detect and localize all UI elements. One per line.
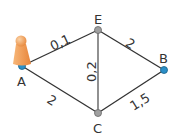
node-label-a: A: [17, 74, 26, 89]
edge-weight-e-b: 2: [123, 35, 138, 52]
node-label-c: C: [93, 121, 102, 136]
edge-weight-a-e: 0,1: [48, 31, 73, 53]
node-b: [161, 67, 168, 74]
edge-weight-e-c: 0,2: [84, 61, 99, 82]
edge-weight-a-c: 2: [44, 92, 59, 109]
node-e: [95, 27, 102, 34]
edge-weight-c-b: 1,5: [127, 90, 152, 114]
node-c: [95, 110, 102, 117]
pawn-icon: [13, 36, 31, 66]
node-label-b: B: [159, 51, 168, 66]
node-label-e: E: [94, 12, 102, 27]
graph-diagram: 0,1 2 2 0,2 1,5 A E B C: [0, 0, 180, 139]
